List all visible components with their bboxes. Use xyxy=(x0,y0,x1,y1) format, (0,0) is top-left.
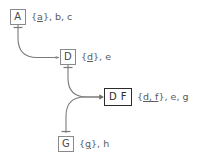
node-a[interactable]: A xyxy=(10,9,26,25)
diagram-canvas: A {a}, b, c D {d}, e D F {d, f}, e, g G … xyxy=(0,0,215,159)
edge-layer xyxy=(0,0,215,159)
node-g[interactable]: G xyxy=(58,136,74,152)
node-d-label: {d}, e xyxy=(81,52,111,62)
edge-a-d xyxy=(14,25,60,59)
node-a-label-suffix: }, b, c xyxy=(43,11,72,22)
node-df[interactable]: D F xyxy=(104,88,132,106)
edge-a-d-dot-marker xyxy=(55,56,58,59)
node-g-text: G xyxy=(62,139,70,149)
edge-df-g-path xyxy=(66,97,101,133)
edge-a-d-path xyxy=(18,25,59,58)
node-df-label-suffix: }, e, g xyxy=(158,91,188,102)
node-d-text: D xyxy=(64,52,72,62)
node-d[interactable]: D xyxy=(60,49,76,65)
edge-df-g-arrow-marker xyxy=(100,95,104,100)
node-g-label-suffix: }, h xyxy=(91,138,109,149)
node-g-label: {g}, h xyxy=(79,139,109,149)
edge-d-df xyxy=(64,65,104,99)
edge-d-df-path xyxy=(68,65,101,97)
node-df-label: {d, f}, e, g xyxy=(137,92,188,102)
node-a-label: {a}, b, c xyxy=(31,12,72,22)
node-df-label-key: d, f xyxy=(143,91,158,102)
node-df-text: D F xyxy=(109,92,127,102)
edge-df-g xyxy=(62,95,104,133)
node-d-label-suffix: }, e xyxy=(93,51,111,62)
node-a-text: A xyxy=(14,12,21,22)
